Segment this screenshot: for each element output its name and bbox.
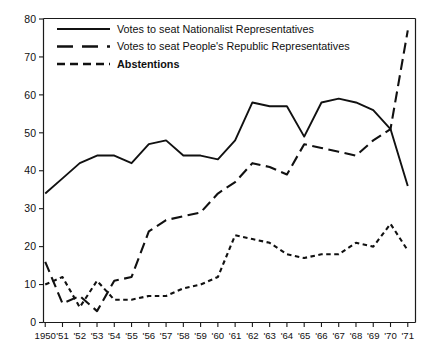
x-tick-label: 1950 [35, 330, 56, 341]
y-tick-label: 40 [24, 164, 36, 176]
x-tick-label: '65 [298, 330, 311, 341]
y-tick-label: 60 [24, 89, 36, 101]
chart-canvas: 010203040506070801950'51'52'53'54'55'56'… [0, 0, 438, 357]
legend-label-1: Votes to seat People's Republic Represen… [117, 40, 350, 52]
series-line-0 [45, 99, 408, 194]
legend-label-2: Abstentions [117, 58, 179, 70]
legend-label-0: Votes to seat Nationalist Representative… [117, 23, 314, 35]
x-tick-label: '62 [246, 330, 259, 341]
x-tick-label: '60 [212, 330, 225, 341]
x-tick-label: '66 [315, 330, 328, 341]
y-tick-label: 20 [24, 240, 36, 252]
x-tick-label: '69 [367, 330, 380, 341]
x-tick-label: '55 [125, 330, 138, 341]
x-tick-label: '70 [384, 330, 397, 341]
x-tick-label: '71 [402, 330, 415, 341]
x-tick-label: '61 [229, 330, 242, 341]
y-tick-label: 30 [24, 202, 36, 214]
y-tick-label: 50 [24, 127, 36, 139]
series-line-2 [45, 224, 408, 307]
x-tick-label: '64 [281, 330, 294, 341]
x-tick-label: '67 [332, 330, 345, 341]
x-tick-label: '54 [108, 330, 121, 341]
line-chart: 010203040506070801950'51'52'53'54'55'56'… [0, 0, 438, 357]
x-tick-label: '68 [350, 330, 363, 341]
y-tick-label: 10 [24, 278, 36, 290]
x-tick-label: '57 [160, 330, 173, 341]
y-tick-label: 0 [30, 316, 36, 328]
x-tick-label: '52 [73, 330, 86, 341]
x-tick-label: '51 [56, 330, 69, 341]
y-tick-label: 70 [24, 51, 36, 63]
x-tick-label: '59 [194, 330, 207, 341]
x-tick-label: '53 [91, 330, 104, 341]
series-line-1 [45, 30, 408, 311]
x-tick-label: '63 [263, 330, 276, 341]
x-tick-label: '56 [143, 330, 156, 341]
x-tick-label: '58 [177, 330, 190, 341]
y-tick-label: 80 [24, 13, 36, 25]
